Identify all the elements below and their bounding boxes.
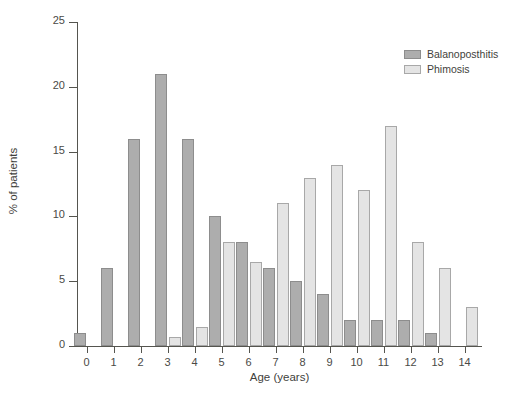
legend-swatch-icon [404,65,421,74]
x-tick-label: 13 [428,356,448,368]
chart-legend: BalanoposthitisPhimosis [404,48,498,78]
bar-phimosis-age-6 [250,262,262,346]
x-tick-mark [114,346,115,353]
bar-balanoposthitis-age-1 [101,268,113,346]
bar-phimosis-age-7 [277,203,289,346]
bar-phimosis-age-5 [223,242,235,346]
bar-balanoposthitis-age-11 [371,320,383,346]
bar-balanoposthitis-age-4 [182,139,194,346]
y-tick-mark [69,216,77,217]
legend-item-phimosis: Phimosis [404,63,498,75]
y-tick-label: 5 [59,273,65,285]
y-tick-label: 15 [53,144,65,156]
x-tick-label: 6 [239,356,259,368]
bar-balanoposthitis-age-10 [344,320,356,346]
x-tick-label: 2 [131,356,151,368]
x-tick-mark [87,346,88,353]
bar-phimosis-age-11 [385,126,397,346]
x-tick-mark [303,346,304,353]
x-tick-mark [249,346,250,353]
x-tick-mark [276,346,277,353]
bar-phimosis-age-3 [169,337,181,346]
x-tick-mark [222,346,223,353]
x-tick-mark [465,346,466,353]
x-tick-mark [384,346,385,353]
x-tick-mark [168,346,169,353]
legend-label: Phimosis [427,63,470,75]
y-tick-mark [69,346,77,347]
x-tick-label: 14 [455,356,475,368]
x-tick-mark [438,346,439,353]
bar-phimosis-age-12 [412,242,424,346]
bar-phimosis-age-10 [358,190,370,346]
y-tick-mark [69,281,77,282]
legend-label: Balanoposthitis [427,48,498,60]
bar-phimosis-age-8 [304,178,316,346]
bar-phimosis-age-13 [439,268,451,346]
y-axis-label: % of patients [7,121,19,241]
y-tick-label: 0 [59,338,65,350]
x-axis-label: Age (years) [77,371,482,383]
x-axis-line [77,346,482,347]
x-tick-label: 4 [185,356,205,368]
x-tick-label: 7 [266,356,286,368]
bar-phimosis-age-14 [466,307,478,346]
bar-balanoposthitis-age-9 [317,294,329,346]
x-tick-label: 10 [347,356,367,368]
x-tick-mark [357,346,358,353]
y-tick-mark [69,22,77,23]
bar-balanoposthitis-age-12 [398,320,410,346]
bar-phimosis-age-4 [196,327,208,346]
y-tick-mark [69,152,77,153]
x-tick-label: 5 [212,356,232,368]
x-tick-mark [141,346,142,353]
y-tick-label: 10 [53,208,65,220]
x-tick-label: 3 [158,356,178,368]
y-tick-mark [69,87,77,88]
x-tick-mark [411,346,412,353]
x-tick-label: 0 [77,356,97,368]
x-tick-mark [330,346,331,353]
bar-balanoposthitis-age-13 [425,333,437,346]
bar-balanoposthitis-age-7 [263,268,275,346]
legend-swatch-icon [404,50,421,59]
legend-item-balanoposthitis: Balanoposthitis [404,48,498,60]
bar-balanoposthitis-age-6 [236,242,248,346]
bar-balanoposthitis-age-0 [74,333,86,346]
bar-balanoposthitis-age-8 [290,281,302,346]
x-tick-label: 1 [104,356,124,368]
x-tick-label: 12 [401,356,421,368]
x-tick-label: 11 [374,356,394,368]
bar-phimosis-age-9 [331,165,343,346]
x-tick-label: 9 [320,356,340,368]
bar-balanoposthitis-age-2 [128,139,140,346]
y-tick-label: 20 [53,79,65,91]
bar-balanoposthitis-age-5 [209,216,221,346]
x-tick-label: 8 [293,356,313,368]
bar-chart: 0510152025 01234567891011121314 Age (yea… [0,0,530,395]
y-tick-label: 25 [53,14,65,26]
bar-balanoposthitis-age-3 [155,74,167,346]
x-tick-mark [195,346,196,353]
